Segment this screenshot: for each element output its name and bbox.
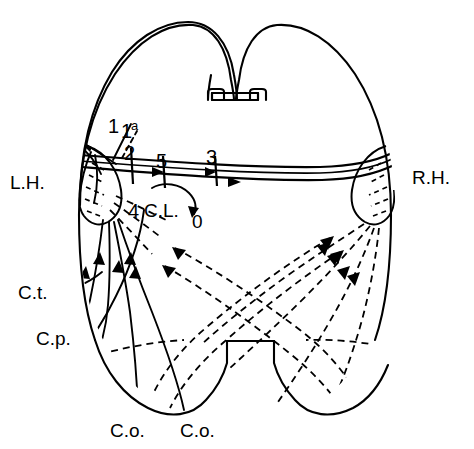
label-marker-3: 3 bbox=[206, 146, 217, 168]
diagram-labels: L.H. R.H. C.t. C.p. C.o. C.o. C.L. 0 1 1… bbox=[10, 115, 450, 441]
lower-dash-left bbox=[88, 340, 184, 358]
label-cp: C.p. bbox=[36, 328, 71, 349]
cross-dash-lr-1 bbox=[175, 248, 358, 396]
crossing-dashed-tracts bbox=[154, 236, 358, 410]
left-solid-fibres bbox=[64, 210, 184, 410]
right-fibre-3 bbox=[278, 228, 374, 402]
label-marker-5: 5 bbox=[156, 150, 167, 172]
label-cl: C.L. bbox=[144, 200, 179, 221]
left-fibre-arrow-2 bbox=[93, 252, 105, 265]
label-marker-4: 4 bbox=[128, 200, 139, 222]
label-right-hemisphere: R.H. bbox=[412, 167, 450, 188]
right-fibre-1 bbox=[202, 224, 364, 344]
label-left-hemisphere: L.H. bbox=[10, 172, 45, 193]
band-arrowhead-3 bbox=[205, 167, 216, 177]
label-co-left: C.o. bbox=[110, 420, 145, 441]
figure-root: L.H. R.H. C.t. C.p. C.o. C.o. C.L. 0 1 1… bbox=[0, 0, 474, 449]
brain-outline-group bbox=[79, 22, 391, 415]
brain-right-wall bbox=[375, 215, 391, 340]
brain-interior bbox=[62, 124, 394, 412]
left-nucleus-hatching bbox=[85, 163, 104, 216]
right-nucleus-outline bbox=[352, 146, 395, 224]
label-marker-2: 2 bbox=[124, 142, 135, 164]
label-ct: C.t. bbox=[18, 282, 48, 303]
label-zero: 0 bbox=[192, 211, 203, 232]
label-co-right: C.o. bbox=[180, 420, 215, 441]
left-fibre-5 bbox=[64, 210, 144, 368]
label-marker-1a-superscript: a bbox=[131, 118, 139, 133]
right-fibre-2 bbox=[230, 226, 370, 368]
cross-dash-arrow-1 bbox=[172, 247, 186, 260]
label-marker-1: 1 bbox=[108, 115, 119, 137]
cross-dash-rl-2 bbox=[170, 252, 340, 408]
cross-dash-lr-2 bbox=[165, 266, 342, 410]
cross-dash-arrow-2 bbox=[162, 265, 176, 278]
commissure-diagram: L.H. R.H. C.t. C.p. C.o. C.o. C.L. 0 1 1… bbox=[0, 0, 474, 449]
right-fibre-arrow-4 bbox=[347, 272, 360, 286]
left-fibre-arrow-5 bbox=[129, 266, 141, 279]
cross-dash-rl-1 bbox=[154, 238, 330, 392]
right-fibre-arrow-3 bbox=[337, 266, 350, 280]
right-hemisphere-nucleus bbox=[352, 146, 395, 224]
right-dashed-fibres bbox=[202, 224, 379, 412]
commissure-line-bottom bbox=[82, 165, 394, 180]
brain-bottom-right-lobe-final bbox=[274, 341, 388, 415]
